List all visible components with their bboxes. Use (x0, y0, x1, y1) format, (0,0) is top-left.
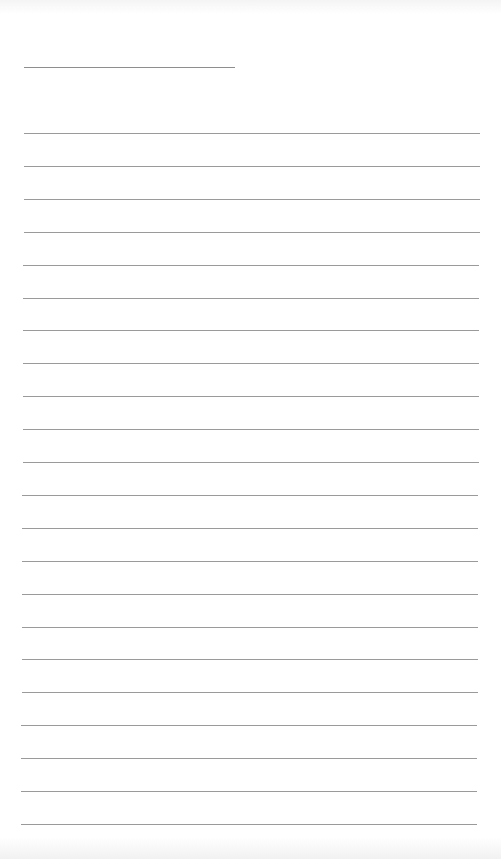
ruled-line (22, 561, 478, 562)
ruled-line (23, 429, 479, 430)
ruled-line (23, 330, 479, 331)
ruled-line (22, 627, 478, 628)
ruled-line (21, 791, 477, 792)
ruled-line (22, 594, 478, 595)
ruled-line (24, 133, 480, 134)
ruled-line (24, 232, 480, 233)
ruled-line (21, 725, 477, 726)
ruled-line (23, 265, 479, 266)
ruled-line (24, 199, 480, 200)
ruled-line (22, 495, 478, 496)
top-edge-shadow (0, 0, 501, 14)
ruled-line (23, 396, 479, 397)
ruled-line (23, 462, 479, 463)
title-underline (24, 67, 235, 68)
bottom-edge-shadow (0, 837, 501, 859)
ruled-line (22, 659, 478, 660)
ruled-line (23, 363, 479, 364)
ruled-line (21, 758, 477, 759)
ruled-line (24, 166, 480, 167)
ruled-line (21, 824, 477, 825)
ruled-line (23, 298, 479, 299)
ruled-line (22, 528, 478, 529)
ruled-line (22, 692, 478, 693)
